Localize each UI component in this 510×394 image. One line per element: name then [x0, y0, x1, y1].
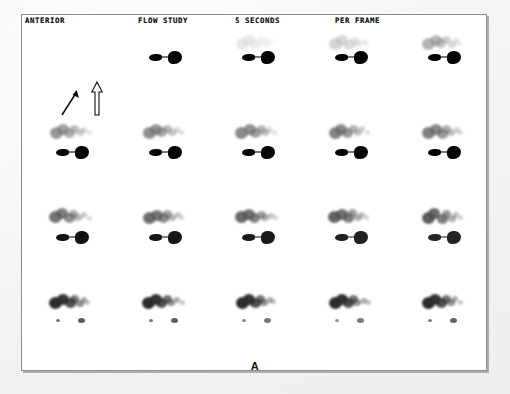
scan-page: ANTERIOR FLOW STUDY 5 SECONDS PER FRAME …: [0, 0, 510, 394]
header-frame-duration-suffix: PER FRAME: [335, 16, 380, 25]
figure-label: A: [0, 360, 510, 372]
header-study-type: FLOW STUDY: [138, 16, 188, 25]
header-view-label: ANTERIOR: [25, 16, 65, 25]
header-frame-duration: 5 SECONDS: [235, 16, 280, 25]
solid-arrow-icon: [58, 84, 84, 118]
hollow-arrow-icon: [89, 80, 105, 118]
study-frame: ANTERIOR FLOW STUDY 5 SECONDS PER FRAME: [21, 14, 487, 371]
annotation-layer: [22, 30, 487, 371]
study-header: ANTERIOR FLOW STUDY 5 SECONDS PER FRAME: [22, 15, 486, 30]
